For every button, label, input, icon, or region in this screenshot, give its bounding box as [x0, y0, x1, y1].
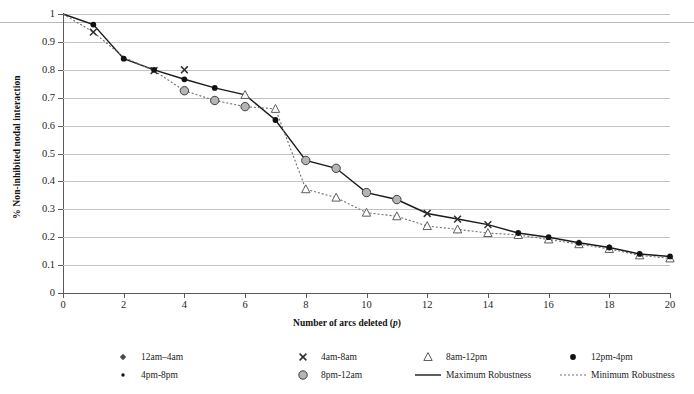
legend-item[interactable]: 12am–4am [110, 350, 183, 364]
y-tick-label: 1 [15, 9, 55, 19]
legend-item-label: 4pm-8pm [141, 369, 178, 381]
legend-item[interactable]: 8am-12pm [415, 350, 487, 364]
legend-item[interactable]: 4pm-8pm [110, 368, 178, 382]
x-tick-label: 10 [352, 300, 382, 310]
y-tick-label: 0.3 [15, 204, 55, 214]
chart-legend: 12am–4am4am-8am8am-12pm12pm-4pm4pm-8pm8p… [0, 348, 694, 392]
marker-circle-grey [302, 156, 310, 164]
marker-triangle [271, 104, 279, 112]
x-tick-label: 18 [594, 300, 624, 310]
x-axis-title-text: Number of arcs deleted ( [293, 318, 393, 328]
x-tick-label: 14 [473, 300, 503, 310]
legend-marker-circle-grey-icon [290, 369, 316, 381]
marker-dot-small [121, 373, 124, 376]
y-tick-label: 0.7 [15, 93, 55, 103]
x-tick [306, 293, 307, 298]
x-tick-label: 6 [230, 300, 260, 310]
marker-circle-grey [393, 195, 401, 203]
legend-marker-triangle-icon [415, 351, 441, 363]
legend-item-label: 8pm-12am [321, 369, 362, 381]
marker-triangle [424, 353, 432, 361]
marker-circle-filled [546, 234, 552, 240]
y-tick-label: 0.5 [15, 149, 55, 159]
legend-marker-circle-filled-icon [560, 351, 586, 363]
plot-area [63, 14, 670, 293]
marker-circle-grey [332, 164, 340, 172]
x-tick [609, 293, 610, 298]
marker-circle-filled [606, 245, 612, 251]
y-tick-label: 0.9 [15, 37, 55, 47]
legend-marker-line-dotted-icon [560, 369, 586, 381]
marker-circle-grey [362, 188, 370, 196]
chart-figure: % Non-inhibited nodal interaction 00.10.… [0, 0, 694, 394]
x-tick [670, 293, 671, 298]
x-tick-label: 8 [291, 300, 321, 310]
x-tick [488, 293, 489, 298]
marker-circle-filled [515, 230, 521, 236]
series-line-minimum-robustness [63, 14, 670, 258]
series-layer [63, 14, 670, 293]
x-tick-label: 0 [48, 300, 78, 310]
legend-marker-line-solid-icon [415, 369, 441, 381]
x-tick [427, 293, 428, 298]
y-tick-label: 0.2 [15, 232, 55, 242]
legend-marker-cross-icon [290, 351, 316, 363]
x-tick-label: 12 [412, 300, 442, 310]
x-tick [184, 293, 185, 298]
x-tick [63, 293, 64, 298]
marker-circle-filled [576, 240, 582, 246]
y-tick-label: 0 [15, 288, 55, 298]
legend-marker-diamond-icon [110, 351, 136, 363]
marker-cross [181, 66, 188, 73]
marker-circle-grey [241, 102, 249, 110]
x-tick [367, 293, 368, 298]
marker-circle-filled [90, 22, 96, 28]
x-tick [245, 293, 246, 298]
marker-circle-filled [151, 67, 157, 73]
legend-item[interactable]: Maximum Robustness [415, 368, 531, 382]
marker-circle-filled [667, 254, 673, 260]
legend-item-label: 4am-8am [321, 351, 357, 363]
x-tick [124, 293, 125, 298]
marker-circle-filled [637, 251, 643, 257]
marker-circle-grey [211, 96, 219, 104]
legend-item[interactable]: Minimum Robustness [560, 368, 675, 382]
x-tick [549, 293, 550, 298]
marker-cross [300, 354, 307, 361]
legend-marker-dot-small-icon [110, 369, 136, 381]
marker-cross [90, 29, 97, 36]
legend-item-label: 12am–4am [141, 351, 183, 363]
marker-triangle [302, 185, 310, 193]
marker-circle-filled [121, 56, 127, 62]
legend-item[interactable]: 12pm-4pm [560, 350, 633, 364]
x-tick-label: 4 [169, 300, 199, 310]
y-tick-label: 0.4 [15, 176, 55, 186]
marker-circle-filled [182, 76, 188, 82]
legend-item[interactable]: 8pm-12am [290, 368, 362, 382]
legend-item-label: Maximum Robustness [446, 369, 531, 381]
y-tick-label: 0.6 [15, 121, 55, 131]
marker-triangle [453, 225, 461, 233]
x-tick-label: 2 [109, 300, 139, 310]
marker-circle-filled [273, 117, 279, 123]
legend-item[interactable]: 4am-8am [290, 350, 357, 364]
marker-triangle [362, 208, 370, 216]
marker-circle-filled [212, 85, 218, 91]
marker-circle-grey [180, 87, 188, 95]
x-axis-title-end: ) [398, 318, 401, 328]
y-tick-label: 0.1 [15, 260, 55, 270]
series-line-maximum-robustness [63, 14, 670, 256]
x-tick-label: 16 [534, 300, 564, 310]
x-tick-label: 20 [655, 300, 685, 310]
legend-item-label: 8am-12pm [446, 351, 487, 363]
marker-circle-filled [570, 354, 576, 360]
legend-item-label: 12pm-4pm [591, 351, 633, 363]
x-axis-title: Number of arcs deleted (p) [0, 318, 694, 328]
y-tick-label: 0.8 [15, 65, 55, 75]
marker-diamond [120, 354, 126, 360]
legend-item-label: Minimum Robustness [591, 369, 675, 381]
marker-circle-grey [299, 371, 307, 379]
